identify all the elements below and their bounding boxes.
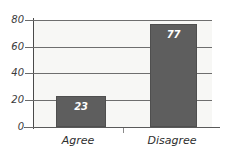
y-tick-mark-40 (25, 73, 34, 74)
y-tick-label-60: 60 (2, 42, 24, 52)
y-tick-label-0: 0 (2, 122, 24, 132)
y-tick-label-20: 20 (2, 95, 24, 105)
x-axis-line (24, 127, 220, 128)
bar-chart: 23 77 80 60 40 20 0 Agree Disagree (0, 0, 232, 158)
y-axis-labels: 80 60 40 20 0 (0, 0, 24, 158)
bar-disagree: 77 (150, 24, 197, 127)
x-tick-mark-category-separator (123, 128, 124, 133)
bar-agree: 23 (56, 96, 106, 127)
x-tick-label-agree: Agree (38, 134, 118, 147)
y-tick-mark-80 (25, 20, 34, 21)
y-tick-label-80: 80 (2, 15, 24, 25)
bar-value-disagree: 77 (151, 29, 196, 40)
bar-value-agree: 23 (57, 101, 105, 112)
gridline-80 (33, 20, 212, 21)
plot-area: 23 77 (33, 20, 212, 127)
y-tick-label-40: 40 (2, 68, 24, 78)
y-tick-mark-20 (25, 100, 34, 101)
x-tick-label-disagree: Disagree (132, 134, 212, 147)
y-tick-mark-60 (25, 47, 34, 48)
y-tick-mark-0 (25, 127, 34, 128)
